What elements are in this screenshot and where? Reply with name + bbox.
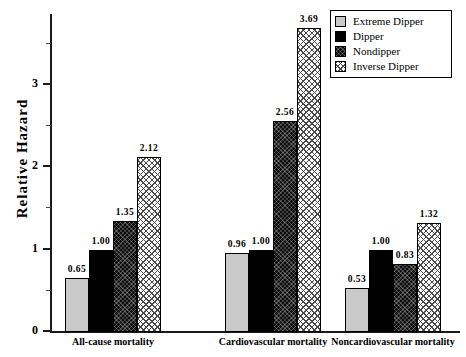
legend-swatch-icon (335, 46, 346, 57)
legend-item: Dipper (335, 29, 447, 44)
legend-item: Inverse Dipper (335, 59, 447, 74)
legend-item-label: Nondipper (353, 46, 400, 57)
legend-item: Nondipper (335, 44, 447, 59)
legend-item: Extreme Dipper (335, 14, 447, 29)
bar-value-label: 1.00 (358, 236, 404, 246)
legend-item-label: Inverse Dipper (353, 61, 419, 72)
legend-swatch-icon (335, 31, 346, 42)
legend: Extreme DipperDipperNondipperInverse Dip… (330, 10, 452, 78)
bar (249, 250, 273, 332)
bar (369, 250, 393, 332)
bar (225, 253, 249, 332)
bar (113, 221, 137, 332)
bar (65, 278, 89, 332)
bar (137, 157, 161, 332)
bar-value-label: 2.12 (126, 143, 172, 153)
bar (273, 121, 297, 332)
bar (393, 264, 417, 332)
bar-value-label: 3.69 (286, 14, 332, 24)
legend-swatch-icon (335, 61, 346, 72)
relative-hazard-bar-chart: Relative Hazard 0123 0.651.001.352.120.9… (0, 0, 466, 357)
legend-item-label: Extreme Dipper (353, 16, 424, 27)
bar-value-label: 1.32 (406, 209, 452, 219)
legend-swatch-icon (335, 16, 346, 27)
legend-item-label: Dipper (353, 31, 384, 42)
bar (89, 250, 113, 332)
bar (417, 223, 441, 332)
bar (297, 28, 321, 332)
x-axis-group-label: Noncardiovascular mortality (303, 336, 466, 347)
x-axis-group-label: All-cause mortality (23, 336, 203, 347)
bar (345, 288, 369, 332)
